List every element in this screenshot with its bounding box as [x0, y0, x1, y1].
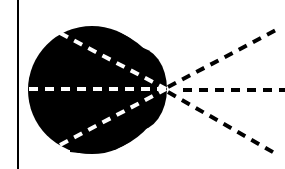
diagram-svg: [0, 0, 285, 169]
outer-rays: [168, 29, 285, 155]
ray-upper-outer: [168, 29, 278, 87]
diagram-canvas: [0, 0, 285, 169]
ray-lower-outer: [168, 92, 278, 155]
